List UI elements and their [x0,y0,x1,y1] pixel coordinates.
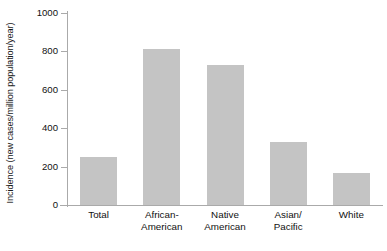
y-axis-tick-label: 200 [0,162,58,172]
y-axis-title: Incidence (new cases/million population/… [2,8,18,218]
x-axis-tick-label-line: White [315,209,387,221]
x-axis-line [60,205,383,206]
bar [80,157,117,205]
y-axis-tick-label: 800 [0,46,58,56]
plot-area [67,13,383,205]
bar [207,65,244,205]
y-axis-tick-label: 0 [0,200,58,210]
y-axis-tick-label: 400 [0,123,58,133]
bar [270,142,307,205]
y-axis-tick [61,205,67,206]
bar-chart-figure: Incidence (new cases/million population/… [0,0,387,251]
y-axis-tick-label: 600 [0,85,58,95]
x-axis-tick-label: African-American [126,209,198,232]
x-axis-tick-label-line: Total [63,209,135,221]
bar [143,49,180,205]
x-axis-tick-label-line: African- [126,209,198,221]
bar [333,173,370,205]
x-axis-tick-label: White [315,209,387,221]
x-axis-tick-label-line: American [189,221,261,233]
x-axis-tick-label-line: Pacific [252,221,324,233]
x-axis-tick-label-line: Asian/ [252,209,324,221]
x-axis-tick-label: NativeAmerican [189,209,261,232]
x-axis-tick-label-line: Native [189,209,261,221]
x-axis-tick-label: Asian/Pacific [252,209,324,232]
y-axis-tick-label: 1000 [0,8,58,18]
x-axis-tick-label: Total [63,209,135,221]
x-axis-tick-label-line: American [126,221,198,233]
